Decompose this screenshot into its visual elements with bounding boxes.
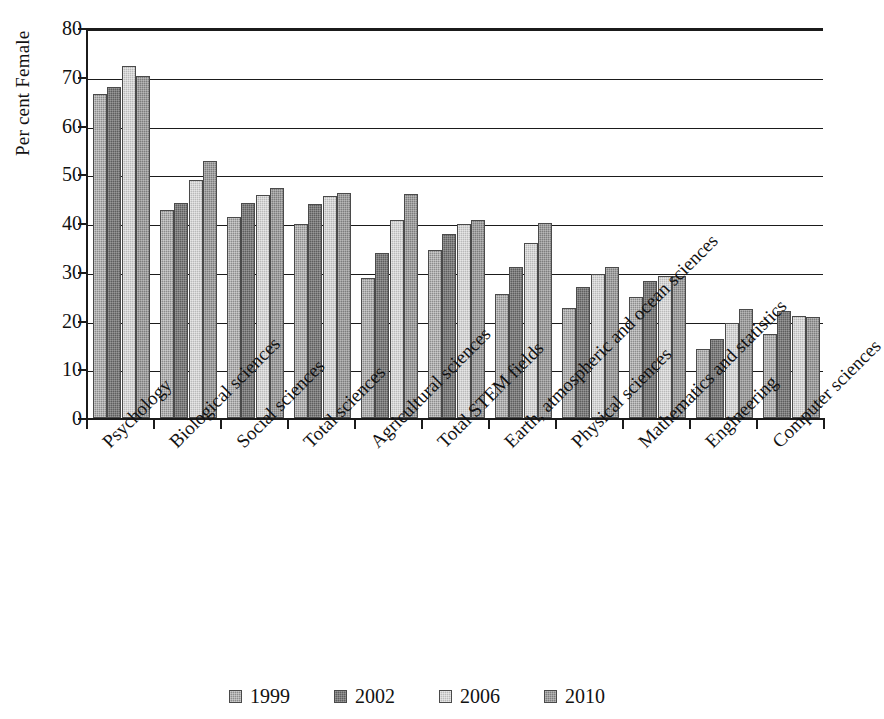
legend-swatch-2010 bbox=[544, 690, 557, 703]
legend-label: 2006 bbox=[460, 686, 500, 706]
bar bbox=[256, 195, 270, 418]
y-axis-tick-label: 60 bbox=[40, 116, 82, 136]
legend-item: 2006 bbox=[439, 686, 500, 706]
bar bbox=[136, 76, 150, 418]
x-axis-tick-mark bbox=[689, 418, 691, 429]
legend-swatch-1999 bbox=[229, 690, 242, 703]
y-axis-tick-label: 30 bbox=[40, 262, 82, 282]
bar bbox=[174, 203, 188, 418]
y-axis-tick-label: 50 bbox=[40, 164, 82, 184]
x-axis-tick-mark bbox=[153, 418, 155, 429]
x-axis-tick-mark bbox=[756, 418, 758, 429]
x-axis-tick-mark bbox=[555, 418, 557, 429]
bar-group bbox=[361, 30, 419, 418]
bar bbox=[777, 311, 791, 418]
y-axis-tick-label: 10 bbox=[40, 359, 82, 379]
bar bbox=[404, 194, 418, 418]
bar bbox=[107, 87, 121, 418]
x-axis-tick-mark bbox=[354, 418, 356, 429]
bar bbox=[457, 224, 471, 418]
y-axis-title: Per cent Female bbox=[12, 0, 40, 156]
x-axis-tick-mark bbox=[287, 418, 289, 429]
y-axis-tick-label: 0 bbox=[40, 408, 82, 428]
legend-item: 1999 bbox=[229, 686, 290, 706]
legend-swatch-2006 bbox=[439, 690, 452, 703]
bar bbox=[509, 267, 523, 418]
x-axis-tick-mark bbox=[622, 418, 624, 429]
legend-label: 2010 bbox=[565, 686, 605, 706]
legend-item: 2010 bbox=[544, 686, 605, 706]
y-axis-tick-label: 20 bbox=[40, 311, 82, 331]
x-axis-tick-mark bbox=[220, 418, 222, 429]
bar bbox=[375, 253, 389, 418]
y-axis-tick-label: 40 bbox=[40, 213, 82, 233]
legend-swatch-2002 bbox=[334, 690, 347, 703]
bar bbox=[524, 243, 538, 418]
legend-label: 2002 bbox=[355, 686, 395, 706]
bar bbox=[270, 188, 284, 418]
bar bbox=[122, 66, 136, 418]
x-axis-tick-mark bbox=[488, 418, 490, 429]
x-axis-tick-mark bbox=[86, 418, 88, 429]
bar bbox=[337, 193, 351, 418]
bar bbox=[442, 234, 456, 418]
bar bbox=[93, 94, 107, 418]
y-axis-tick-label: 80 bbox=[40, 18, 82, 38]
bar-group bbox=[93, 30, 151, 418]
bar bbox=[390, 220, 404, 418]
bar bbox=[203, 161, 217, 418]
x-axis-tick-mark bbox=[823, 418, 825, 429]
bar-group bbox=[160, 30, 218, 418]
x-axis-tick-mark bbox=[421, 418, 423, 429]
y-axis-tick-label: 70 bbox=[40, 67, 82, 87]
legend-label: 1999 bbox=[250, 686, 290, 706]
bar bbox=[323, 196, 337, 418]
bar-group bbox=[763, 30, 821, 418]
bar bbox=[189, 180, 203, 418]
bar-group bbox=[294, 30, 352, 418]
chart-legend: 1999200220062010 bbox=[0, 686, 834, 706]
legend-item: 2002 bbox=[334, 686, 395, 706]
